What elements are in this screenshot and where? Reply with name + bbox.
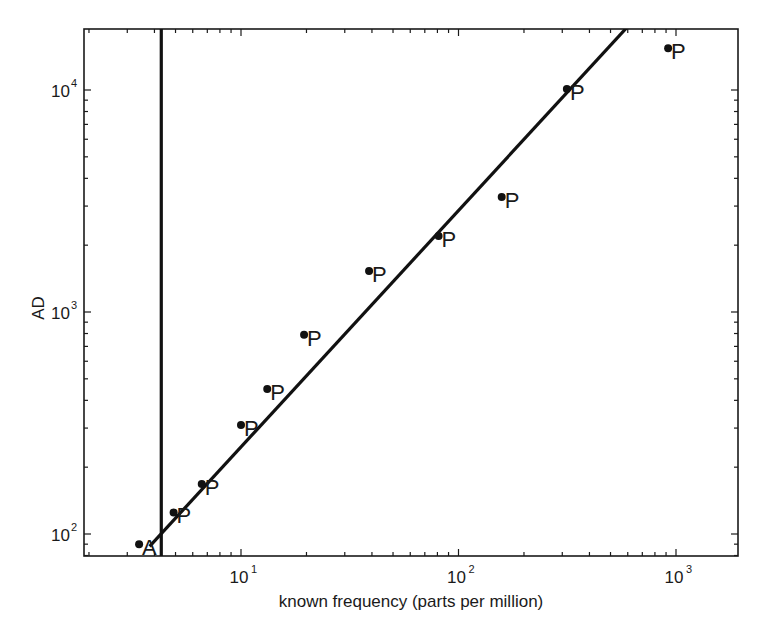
point-label: P <box>205 475 220 500</box>
y-tick-label: 10 <box>51 304 70 323</box>
point-label: P <box>442 227 457 252</box>
point-label: P <box>671 39 686 64</box>
y-tick-exponent: 2 <box>71 521 77 533</box>
x-tick-label: 10 <box>230 568 249 587</box>
y-tick-label: 10 <box>51 82 70 101</box>
y-axis-title: AD <box>29 296 48 320</box>
x-axis-title: known frequency (parts per million) <box>279 592 544 611</box>
x-tick-exponent: 3 <box>686 563 692 575</box>
y-tick-exponent: 4 <box>71 77 77 89</box>
x-tick-label: 10 <box>447 568 466 587</box>
point-label: A <box>142 535 157 560</box>
y-tick-exponent: 3 <box>71 299 77 311</box>
point-label: P <box>177 503 192 528</box>
point-label: P <box>372 262 387 287</box>
plot-frame <box>84 29 738 556</box>
scatter-chart: 101102103 102103104 known frequency (par… <box>0 0 761 639</box>
point-label: P <box>270 380 285 405</box>
x-tick-label: 10 <box>665 568 684 587</box>
point-label: P <box>307 326 322 351</box>
y-tick-label: 10 <box>51 526 70 545</box>
x-tick-exponent: 2 <box>469 563 475 575</box>
point-label: P <box>570 80 585 105</box>
point-label: P <box>244 416 259 441</box>
x-tick-exponent: 1 <box>251 563 257 575</box>
y-tick-labels: 102103104 <box>51 77 77 545</box>
point-label: P <box>505 188 520 213</box>
x-tick-labels: 101102103 <box>230 563 693 587</box>
